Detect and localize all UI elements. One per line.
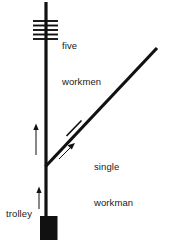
direction-arrow-upper	[33, 124, 38, 156]
trolley-car	[40, 216, 58, 240]
label-single-workman: single workman	[94, 137, 133, 233]
label-five-workmen-line2: workmen	[62, 76, 101, 88]
trolley-problem-diagram: five workmen single workman trolley	[0, 0, 169, 245]
label-single-workman-line2: workman	[94, 197, 133, 209]
label-five-workmen-line1: five	[62, 40, 101, 52]
label-five-workmen: five workmen	[62, 16, 101, 112]
label-single-workman-line1: single	[94, 161, 133, 173]
single-workman-tie	[67, 121, 82, 137]
label-trolley: trolley	[6, 208, 32, 220]
direction-arrow-lower	[36, 187, 41, 210]
